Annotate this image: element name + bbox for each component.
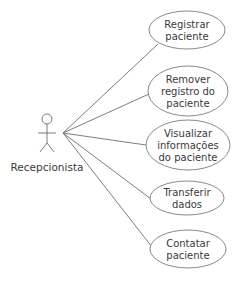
association-lines	[63, 44, 158, 247]
association-line-uc2	[63, 94, 149, 133]
use-cases: RegistrarpacienteRemoverregistro dopacie…	[146, 11, 230, 268]
use-case-label-line: Visualizar	[164, 128, 213, 139]
actor-recepcionista: Recepcionista	[11, 114, 84, 173]
actor-left-leg	[40, 143, 47, 152]
association-line-uc3	[63, 133, 146, 145]
actor-right-leg	[47, 143, 54, 152]
use-case-label-line: paciente	[166, 98, 209, 109]
use-case-uc4: Transferirdados	[150, 181, 224, 215]
actor-head	[42, 114, 52, 124]
association-line-uc1	[63, 44, 158, 133]
use-case-label-line: Transferir	[162, 187, 211, 198]
actor-label: Recepcionista	[11, 161, 84, 173]
use-case-label-line: dados	[172, 199, 202, 210]
use-case-diagram: Recepcionista RegistrarpacienteRemoverre…	[0, 0, 239, 285]
use-case-uc3: Visualizarinformaçõesdo paciente	[146, 120, 230, 170]
use-case-label-line: paciente	[166, 250, 209, 261]
use-case-label-line: Remover	[166, 74, 212, 85]
use-case-label-line: do paciente	[159, 152, 218, 163]
use-case-label-line: Contatar	[166, 238, 211, 249]
use-case-label-line: paciente	[165, 31, 208, 42]
use-case-uc5: Contatarpaciente	[150, 230, 226, 268]
use-case-uc1: Registrarpaciente	[149, 11, 225, 49]
use-case-uc2: Removerregistro dopaciente	[148, 66, 228, 116]
use-case-label-line: informações	[157, 140, 219, 151]
use-case-label-line: Registrar	[164, 19, 210, 30]
use-case-label-line: registro do	[161, 86, 215, 97]
